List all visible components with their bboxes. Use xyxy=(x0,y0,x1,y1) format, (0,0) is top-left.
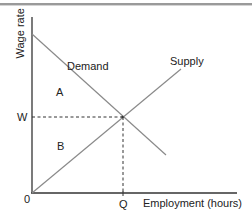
region-b-label: B xyxy=(57,141,64,152)
supply-curve xyxy=(32,69,181,193)
labor-market-diagram xyxy=(0,0,252,216)
demand-label: Demand xyxy=(67,61,109,72)
wage-w-label: W xyxy=(17,112,27,123)
quantity-q-label: Q xyxy=(119,199,128,210)
x-axis-label: Employment (hours) xyxy=(143,198,242,209)
region-a-label: A xyxy=(56,87,63,98)
supply-label: Supply xyxy=(170,56,204,67)
equilibrium-point xyxy=(121,116,123,118)
y-axis-label: Wage rate xyxy=(15,13,26,59)
origin-label: 0 xyxy=(24,194,30,205)
